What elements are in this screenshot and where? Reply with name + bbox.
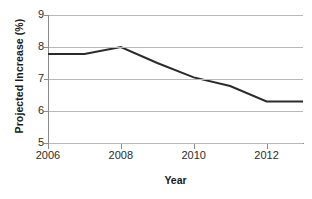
gridline-y	[48, 79, 303, 80]
series-polyline	[48, 47, 303, 101]
y-axis-tick	[44, 111, 49, 112]
gridline-y	[48, 143, 303, 144]
x-axis-tick-label: 2010	[174, 150, 214, 161]
x-axis-tick-label: 2012	[247, 150, 287, 161]
y-axis-tick-label: 5	[30, 137, 44, 148]
gridline-y	[48, 111, 303, 112]
y-axis-tick-label: 7	[30, 73, 44, 84]
y-axis-title: Projected Increase (%)	[13, 1, 25, 151]
x-axis-tick-label: 2006	[28, 150, 68, 161]
y-axis-tick	[44, 79, 49, 80]
y-axis-tick-label: 6	[30, 105, 44, 116]
y-axis-tick-label: 8	[30, 41, 44, 52]
y-axis-tick-label: 9	[30, 9, 44, 20]
x-axis-tick-label: 2008	[101, 150, 141, 161]
y-axis-tick	[44, 15, 49, 16]
x-axis-title: Year	[48, 174, 303, 186]
gridline-y	[48, 15, 303, 16]
gridline-y	[48, 47, 303, 48]
plot-area	[48, 15, 303, 143]
line-chart: Projected Increase (%) Year 987652006200…	[0, 0, 312, 199]
y-axis-tick	[44, 47, 49, 48]
